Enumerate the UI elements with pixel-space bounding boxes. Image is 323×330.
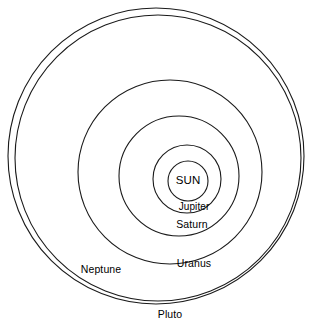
label-pluto: Pluto — [158, 309, 182, 320]
label-saturn: Saturn — [176, 219, 208, 230]
orbit-canvas — [0, 0, 323, 330]
label-sun: SUN — [176, 175, 201, 187]
orbit-diagram: SUN Jupiter Saturn Uranus Neptune Pluto — [0, 0, 323, 330]
orbit-circle-pluto — [8, 8, 304, 304]
label-jupiter: Jupiter — [179, 202, 210, 212]
label-uranus: Uranus — [177, 258, 211, 269]
orbit-circle-neptune — [15, 15, 301, 301]
label-neptune: Neptune — [81, 264, 121, 275]
